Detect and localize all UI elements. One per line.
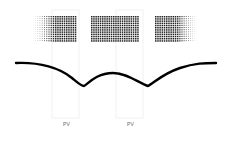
- pv-label-left: PV: [63, 121, 70, 127]
- diagram-canvas: [0, 0, 229, 159]
- diagram: PV PV: [0, 0, 229, 159]
- pv-label-right: PV: [127, 121, 134, 127]
- dot-grid-panels: [33, 16, 197, 42]
